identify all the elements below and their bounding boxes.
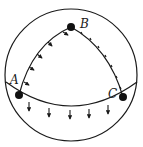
vertex-c-label: C [108,87,117,101]
spherical-triangle-diagram: A B C [0,0,143,147]
arc-ab [19,27,71,95]
arc-ab-arrows [24,32,68,85]
vertex-b-label: B [79,17,89,31]
arc-ac-arrows [29,102,108,119]
vertex-a-label: A [9,73,19,87]
great-circle-arc-ac [6,82,137,106]
vertex-c-dot [119,93,127,101]
vertex-a-dot [15,91,23,99]
arc-bc-ticks [81,32,121,89]
vertex-b-dot [67,23,75,31]
